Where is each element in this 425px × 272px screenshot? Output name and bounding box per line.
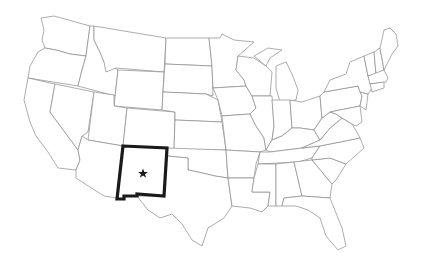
state-north-dakota <box>165 38 212 66</box>
state-maine <box>380 28 398 70</box>
us-map <box>0 0 425 272</box>
state-florida <box>282 196 346 250</box>
state-kansas <box>174 120 226 150</box>
state-new-jersey <box>360 92 368 110</box>
state-wyoming <box>114 70 164 110</box>
state-connecticut <box>370 82 384 92</box>
state-arizona <box>76 136 123 198</box>
state-south-dakota <box>163 64 213 96</box>
state-montana <box>94 26 166 72</box>
states-layer <box>24 16 398 250</box>
